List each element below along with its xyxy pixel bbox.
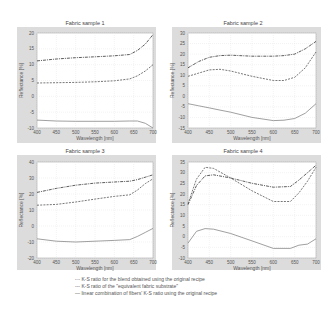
y-axis-label: Reflectance [%] xyxy=(169,192,175,228)
y-tick-label: 20 xyxy=(180,192,186,197)
y-tick-label: 30 xyxy=(180,170,186,175)
y-tick-label: 0 xyxy=(182,234,185,239)
y-tick-label: 5 xyxy=(182,224,185,229)
chart-4: 400450500550600650700-10-505101520253035… xyxy=(0,0,331,272)
y-tick-label: 10 xyxy=(180,213,186,218)
legend-label: K-S ratio of the "equivalent fabric subs… xyxy=(81,283,178,289)
panel-4: Fabric sample 4 400450500550600650700-10… xyxy=(0,0,331,272)
legend-item-equivalent: --- K-S ratio of the "equivalent fabric … xyxy=(75,283,217,290)
legend-marker: --- xyxy=(75,283,80,289)
legend: -·- K-S ratio for the blend obtained usi… xyxy=(75,276,217,297)
legend-marker: — xyxy=(75,290,80,296)
y-tick-label: 35 xyxy=(180,160,186,165)
legend-item-blend: -·- K-S ratio for the blend obtained usi… xyxy=(75,276,217,283)
legend-label: K-S ratio for the blend obtained using t… xyxy=(81,276,204,282)
legend-label: linear combination of fibers' K-S ratio … xyxy=(81,290,217,296)
y-tick-label: -10 xyxy=(178,256,185,261)
y-tick-label: 25 xyxy=(180,181,186,186)
y-tick-label: 15 xyxy=(180,202,186,207)
legend-marker: -·- xyxy=(75,276,80,282)
x-tick-label: 450 xyxy=(206,260,214,265)
x-tick-label: 600 xyxy=(270,260,278,265)
x-axis-label: Wavelength [nm] xyxy=(233,265,271,271)
y-tick-label: -5 xyxy=(181,245,185,250)
legend-item-linear: — linear combination of fibers' K-S rati… xyxy=(75,290,217,297)
x-tick-label: 700 xyxy=(312,260,320,265)
x-tick-label: 400 xyxy=(184,260,192,265)
x-tick-label: 650 xyxy=(291,260,299,265)
